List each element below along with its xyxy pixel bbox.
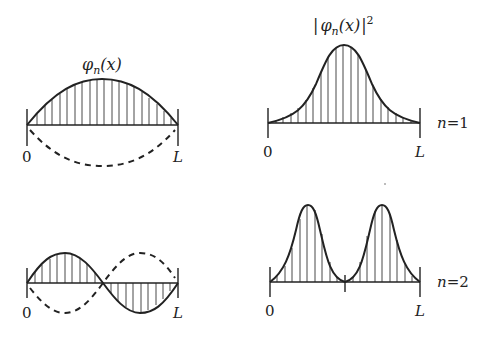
x-start-label: 0: [263, 143, 273, 161]
negative-wavefunction-curve: [30, 130, 175, 166]
panel-n2-wavefunction: 0 L: [22, 253, 183, 322]
x-end-label: L: [172, 148, 183, 166]
x-start-label: 0: [22, 148, 32, 166]
quantum-number-label: n=1: [437, 114, 469, 132]
quantum-number-label: n=2: [437, 273, 469, 291]
panel-title: φn(x): [82, 55, 122, 77]
x-end-label: L: [414, 143, 425, 161]
particle-in-box-diagram: φn(x) 0 L |φn(x: [0, 0, 495, 349]
panel-n1-probability: |φn(x)|2 0 L n=1: [263, 14, 469, 161]
probability-curve: [270, 205, 420, 282]
panel-n2-probability: 0 L n=2: [265, 205, 469, 320]
stray-dot: [384, 183, 386, 185]
hatch-lines: [37, 79, 171, 125]
panel-title: |φn(x)|2: [313, 14, 374, 38]
x-start-label: 0: [22, 304, 32, 322]
hatch-lines: [277, 205, 412, 282]
x-end-label: L: [172, 304, 183, 322]
wavefunction-curve: [27, 79, 178, 125]
x-end-label: L: [414, 302, 425, 320]
x-start-label: 0: [265, 302, 275, 320]
panel-n1-wavefunction: φn(x) 0 L: [22, 55, 183, 166]
probability-curve: [268, 45, 420, 123]
